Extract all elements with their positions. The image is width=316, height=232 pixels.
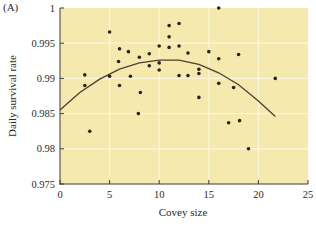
data-point — [227, 121, 231, 125]
data-point — [83, 84, 87, 88]
data-point — [177, 22, 181, 26]
data-point — [157, 44, 161, 48]
data-point — [167, 35, 171, 39]
data-point — [217, 57, 221, 61]
data-point — [117, 60, 121, 64]
data-point — [127, 50, 131, 54]
data-point — [237, 53, 241, 57]
data-point — [83, 73, 87, 77]
data-point — [273, 77, 277, 81]
data-point — [147, 64, 151, 68]
data-point — [177, 44, 181, 48]
data-point — [88, 129, 92, 133]
data-point — [232, 86, 236, 90]
data-point — [217, 6, 221, 10]
data-point — [157, 68, 161, 72]
data-point — [186, 51, 190, 55]
data-point — [118, 84, 122, 88]
y-axis-ticks: 0.9750.980.9850.990.9951 — [31, 3, 64, 190]
data-point — [108, 30, 112, 34]
data-point — [217, 82, 221, 86]
scatter-chart: 0510152025 0.9750.980.9850.990.9951 — [0, 0, 316, 232]
x-tick-label: 10 — [154, 189, 165, 200]
data-point — [118, 47, 122, 51]
data-point — [247, 147, 251, 151]
x-tick-label: 15 — [204, 189, 215, 200]
data-point — [138, 55, 142, 59]
data-point — [197, 96, 201, 100]
data-point — [147, 52, 151, 56]
y-tick-label: 0.98 — [37, 143, 55, 154]
data-point — [167, 24, 171, 28]
data-point — [139, 91, 143, 95]
data-point — [186, 74, 190, 78]
x-tick-label: 5 — [107, 189, 112, 200]
data-point — [177, 74, 181, 78]
y-tick-label: 0.995 — [31, 38, 55, 49]
x-tick-label: 25 — [303, 189, 314, 200]
y-tick-label: 1 — [50, 3, 55, 14]
data-point — [167, 46, 171, 50]
y-tick-label: 0.99 — [37, 73, 55, 84]
plot-area — [60, 8, 308, 184]
data-point — [108, 74, 112, 78]
y-tick-label: 0.975 — [31, 179, 55, 190]
data-point — [207, 50, 211, 54]
data-point — [197, 72, 201, 76]
data-point — [197, 67, 201, 71]
x-tick-label: 0 — [57, 189, 62, 200]
x-tick-label: 20 — [253, 189, 264, 200]
data-point — [129, 74, 133, 78]
y-tick-label: 0.985 — [31, 108, 55, 119]
data-point — [157, 61, 161, 65]
data-point — [137, 112, 141, 116]
data-point — [238, 119, 242, 123]
